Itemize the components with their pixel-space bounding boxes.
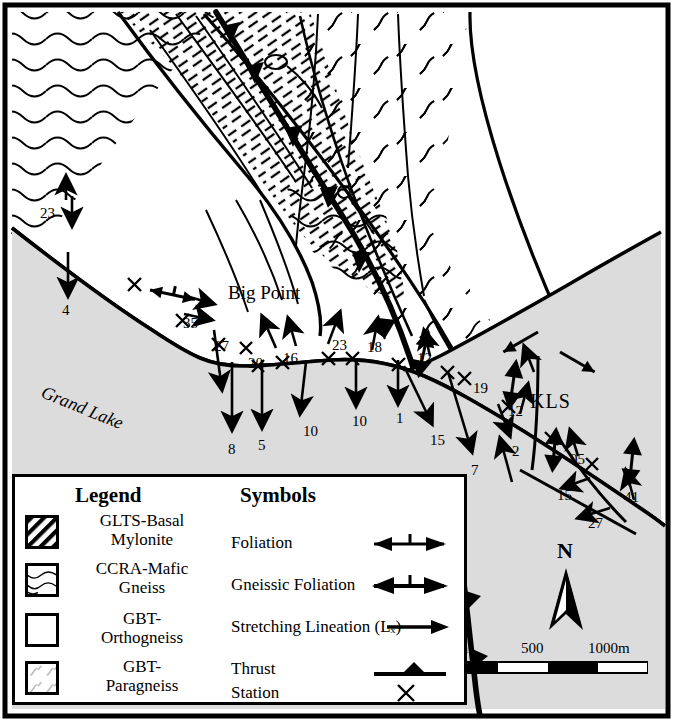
legend-label-mylonite-l2: Mylonite bbox=[111, 530, 173, 549]
place-label-big-point: Big Point bbox=[228, 282, 300, 304]
legend-label-mafic-l1: CCRA-Mafic bbox=[96, 559, 189, 578]
station-x-icon bbox=[393, 681, 419, 705]
measurement-value: 12 bbox=[508, 403, 523, 420]
measurement-value: 18 bbox=[367, 339, 382, 356]
legend-label-ortho-l1: GBT- bbox=[123, 609, 161, 628]
stretching-lineation-icon bbox=[385, 617, 451, 637]
legend-symbol-label-thrust: Thrust bbox=[231, 659, 275, 679]
scale-bar bbox=[448, 660, 648, 676]
legend-swatch-mafic-gneiss bbox=[25, 563, 59, 597]
measurement-value: 1 bbox=[396, 410, 404, 427]
legend-label-ortho-l2: Orthogneiss bbox=[101, 628, 183, 647]
legend-heading-symbols: Symbols bbox=[240, 483, 316, 508]
measurement-value: 2 bbox=[512, 443, 520, 460]
legend-swatch-mylonite bbox=[25, 515, 59, 549]
measurement-value: 15 bbox=[430, 432, 445, 449]
legend-swatch-paragneiss bbox=[25, 661, 59, 695]
scale-tick-1000: 1000m bbox=[588, 640, 630, 657]
north-arrow-icon bbox=[543, 566, 589, 634]
legend-symbol-label-gneissic-foliation: Gneissic Foliation bbox=[231, 575, 355, 595]
legend-label-mylonite-l1: GLTS-Basal bbox=[100, 511, 184, 530]
legend-label-orthogneiss: GBT- Orthogneiss bbox=[67, 609, 217, 647]
measurement-value: 23 bbox=[332, 337, 347, 354]
north-arrow-label: N bbox=[557, 538, 573, 564]
measurement-value: 10 bbox=[352, 413, 367, 430]
unit-label-kls: KLS bbox=[530, 390, 571, 413]
scale-tick-500: 500 bbox=[521, 640, 544, 657]
measurement-value: 15 bbox=[557, 487, 572, 504]
legend-label-paragneiss: GBT- Paragneiss bbox=[67, 657, 217, 695]
measurement-value: 27 bbox=[588, 515, 603, 532]
legend-symbol-label-station: Station bbox=[231, 683, 279, 703]
foliation-icon bbox=[370, 531, 450, 553]
measurement-value: 12 bbox=[417, 350, 432, 367]
legend-label-mylonite: GLTS-Basal Mylonite bbox=[67, 511, 217, 549]
measurement-value: 35 bbox=[183, 315, 198, 332]
legend-heading-units: Legend bbox=[75, 483, 142, 508]
measurement-value: 8 bbox=[228, 441, 236, 458]
legend-panel: Legend Symbols GLTS-Basal Mylonite CCRA-… bbox=[12, 474, 467, 705]
measurement-value: 5 bbox=[258, 437, 266, 454]
measurement-value: 05 bbox=[570, 451, 585, 468]
measurement-value: 19 bbox=[473, 380, 488, 397]
measurement-value: 27 bbox=[214, 338, 229, 355]
legend-label-para-l2: Paragneiss bbox=[106, 676, 179, 695]
measurement-value: 10 bbox=[303, 423, 318, 440]
measurement-value: 16 bbox=[283, 350, 298, 367]
thrust-icon bbox=[370, 659, 450, 679]
measurement-value: 20 bbox=[248, 355, 263, 372]
measurement-value: 4 bbox=[62, 302, 70, 319]
legend-swatch-orthogneiss bbox=[25, 613, 59, 647]
measurement-value: 7 bbox=[471, 462, 479, 479]
legend-symbol-label-foliation: Foliation bbox=[231, 533, 292, 553]
legend-label-mafic-gneiss: CCRA-Mafic Gneiss bbox=[67, 559, 217, 597]
measurement-value: 23 bbox=[40, 205, 55, 222]
legend-symbol-label-stretching-lineation: Stretching Lineation (Lₓ) bbox=[231, 617, 401, 637]
legend-label-para-l1: GBT- bbox=[123, 657, 161, 676]
geologic-map-figure: 2343527201623181219128510101157205154127… bbox=[0, 0, 673, 721]
measurement-value: 41 bbox=[624, 489, 639, 506]
gneissic-foliation-icon bbox=[370, 573, 450, 595]
legend-label-mafic-l2: Gneiss bbox=[119, 578, 165, 597]
